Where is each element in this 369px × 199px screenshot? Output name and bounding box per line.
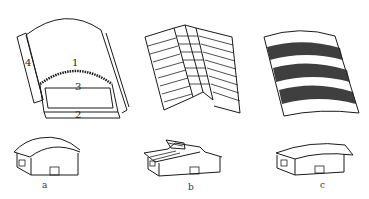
panel-a-detail: 1 2 3 4: [17, 19, 129, 120]
part-label-3: 3: [75, 81, 81, 92]
caption-b: b: [188, 182, 194, 192]
building-c: c: [276, 144, 353, 190]
building-a: a: [14, 137, 80, 190]
roof-types-diagram: 1 2 3 4 a: [0, 0, 369, 199]
caption-c: c: [320, 180, 325, 190]
part-label-1: 1: [72, 57, 78, 68]
panel-b-detail: [145, 25, 240, 113]
building-b: b: [144, 140, 222, 192]
part-label-2: 2: [75, 109, 81, 120]
panel-c-detail: [264, 31, 359, 116]
part-label-4: 4: [25, 57, 31, 68]
caption-a: a: [42, 180, 48, 190]
